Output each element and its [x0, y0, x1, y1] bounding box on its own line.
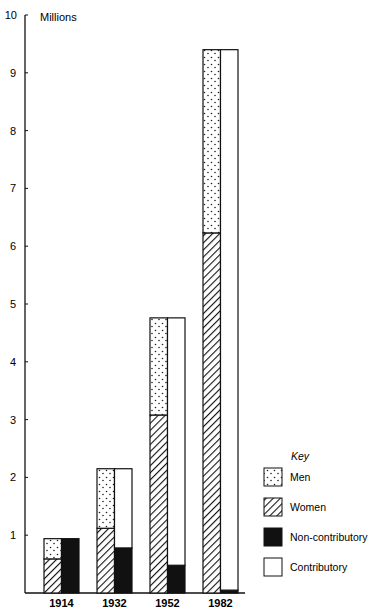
legend-swatch-women — [264, 498, 282, 516]
y-tick-label: 9 — [10, 67, 16, 79]
y-tick-label: 7 — [10, 182, 16, 194]
bar-segment-men — [97, 469, 115, 529]
bar-segment-men — [203, 50, 221, 233]
bar-segment-contributory — [221, 50, 239, 590]
legend-title: Key — [291, 450, 310, 462]
bar-segment-men — [150, 318, 168, 415]
x-tick-label: 1952 — [155, 597, 179, 609]
y-unit-label: Millions — [40, 11, 77, 23]
legend-swatch-men — [264, 468, 282, 486]
y-tick-label: 8 — [10, 125, 16, 137]
bar-segment-women — [97, 528, 115, 593]
bar-segment-non-contributory — [62, 539, 80, 593]
legend-swatch-non-contributory — [264, 528, 282, 546]
bar-segment-contributory — [168, 318, 186, 565]
x-tick-label: 1982 — [208, 597, 232, 609]
legend-label: Contributory — [290, 561, 348, 573]
bar-segment-non-contributory — [115, 548, 133, 593]
y-tick-label: 5 — [10, 298, 16, 310]
x-tick-label: 1932 — [102, 597, 126, 609]
legend-label: Women — [290, 501, 326, 513]
stacked-bar-chart: 12345678910Millions 1914193219521982 Key… — [0, 0, 376, 611]
legend-label: Men — [290, 471, 311, 483]
legend-label: Non-contributory — [290, 531, 368, 543]
y-tick-label: 4 — [10, 356, 16, 368]
bar-segment-women — [150, 415, 168, 593]
x-tick-label: 1914 — [49, 597, 74, 609]
legend-swatch-contributory — [264, 558, 282, 576]
bar-segment-women — [203, 233, 221, 593]
bar-segment-non-contributory — [168, 565, 186, 593]
bars: 1914193219521982 — [44, 50, 238, 609]
legend: KeyMenWomenNon-contributoryContributory — [264, 450, 368, 576]
y-tick-label: 6 — [10, 240, 16, 252]
y-tick-label: 10 — [5, 9, 17, 21]
bar-segment-men — [44, 539, 62, 559]
y-tick-label: 3 — [10, 414, 16, 426]
chart-figure: 12345678910Millions 1914193219521982 Key… — [0, 0, 376, 611]
bar-segment-contributory — [115, 469, 133, 548]
y-tick-label: 1 — [10, 529, 16, 541]
y-tick-label: 2 — [10, 471, 16, 483]
bar-segment-women — [44, 559, 62, 593]
